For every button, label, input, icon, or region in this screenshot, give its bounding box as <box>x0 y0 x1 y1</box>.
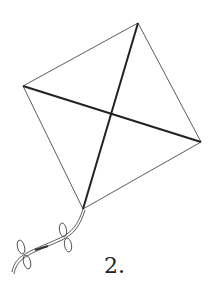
kite-outline <box>23 23 201 209</box>
kite-tail <box>12 209 85 274</box>
kite-illustration <box>0 0 221 294</box>
figure-label: 2. <box>104 253 125 278</box>
kite-spars <box>23 23 201 209</box>
